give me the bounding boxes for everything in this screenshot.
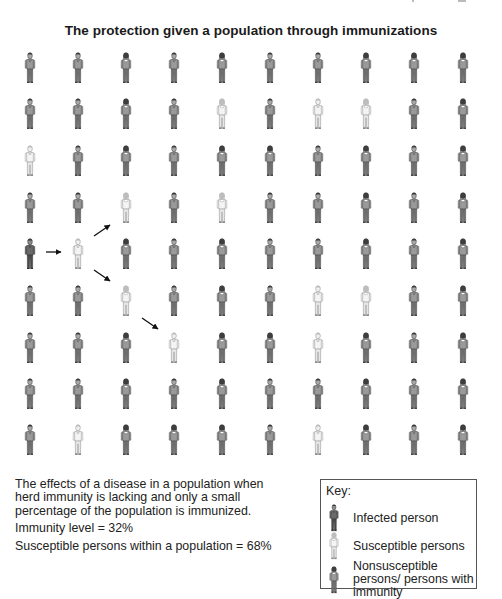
key-label-nonsusceptible: Nonsusceptible persons/ persons with imm… [353, 560, 481, 599]
nonsusceptible-person-icon [71, 332, 85, 364]
nonsusceptible-person-icon [407, 285, 421, 317]
key-item-susceptible: Susceptible persons [327, 532, 465, 560]
nonsusceptible-person-icon [359, 52, 373, 84]
nonsusceptible-person-icon [119, 332, 133, 364]
nonsusceptible-person-icon [311, 52, 325, 84]
nonsusceptible-person-icon [23, 98, 37, 130]
nonsusceptible-person-icon [263, 238, 277, 270]
caption-description: The effects of a disease in a population… [15, 478, 275, 518]
nonsusceptible-person-icon [456, 285, 470, 317]
nonsusceptible-person-icon [407, 378, 421, 410]
nonsusceptible-person-icon [119, 145, 133, 177]
nonsusceptible-person-icon [119, 98, 133, 130]
nonsusceptible-person-icon [167, 424, 181, 456]
susceptible-person-icon [311, 98, 325, 130]
legend-key: Key: Infected person Susceptible persons [320, 479, 477, 589]
nonsusceptible-person-icon [407, 332, 421, 364]
nonsusceptible-person-icon [456, 378, 470, 410]
nonsusceptible-person-icon [311, 378, 325, 410]
nonsusceptible-person-icon [456, 424, 470, 456]
infected-person-icon [23, 238, 37, 270]
nonsusceptible-person-icon [71, 145, 85, 177]
nonsusceptible-person-icon [359, 192, 373, 224]
nonsusceptible-person-icon [263, 332, 277, 364]
nonsusceptible-person-icon [263, 378, 277, 410]
susceptible-person-icon [23, 145, 37, 177]
nonsusceptible-person-icon [311, 238, 325, 270]
nonsusceptible-person-icon [456, 238, 470, 270]
nonsusceptible-person-icon [23, 424, 37, 456]
key-label-nonsusceptible-text: Nonsusceptible persons/ persons with imm… [353, 559, 474, 599]
nonsusceptible-person-icon [407, 192, 421, 224]
susceptible-person-icon [167, 332, 181, 364]
susceptible-share: Susceptible persons within a population … [15, 540, 275, 553]
nonsusceptible-person-icon [71, 192, 85, 224]
nonsusceptible-person-icon [215, 378, 229, 410]
population-grid [0, 0, 502, 460]
immune-person-icon [327, 566, 341, 594]
caption: The effects of a disease in a population… [15, 478, 275, 557]
nonsusceptible-person-icon [359, 378, 373, 410]
nonsusceptible-person-icon [215, 332, 229, 364]
nonsusceptible-person-icon [215, 424, 229, 456]
susceptible-person-icon [119, 192, 133, 224]
susceptible-person-icon [119, 285, 133, 317]
nonsusceptible-person-icon [23, 192, 37, 224]
nonsusceptible-person-icon [407, 98, 421, 130]
nonsusceptible-person-icon [456, 145, 470, 177]
nonsusceptible-person-icon [359, 238, 373, 270]
nonsusceptible-person-icon [311, 192, 325, 224]
nonsusceptible-person-icon [167, 52, 181, 84]
nonsusceptible-person-icon [456, 192, 470, 224]
nonsusceptible-person-icon [311, 145, 325, 177]
nonsusceptible-person-icon [263, 285, 277, 317]
nonsusceptible-person-icon [23, 52, 37, 84]
nonsusceptible-person-icon [263, 52, 277, 84]
immunity-level: Immunity level = 32% [15, 522, 275, 535]
nonsusceptible-person-icon [263, 98, 277, 130]
nonsusceptible-person-icon [263, 145, 277, 177]
susceptible-person-icon [327, 532, 341, 560]
key-item-nonsusceptible: Nonsusceptible persons/ persons with imm… [327, 560, 481, 599]
nonsusceptible-person-icon [71, 98, 85, 130]
susceptible-person-icon [359, 98, 373, 130]
nonsusceptible-person-icon [359, 332, 373, 364]
nonsusceptible-person-icon [456, 98, 470, 130]
nonsusceptible-person-icon [167, 192, 181, 224]
nonsusceptible-person-icon [23, 378, 37, 410]
nonsusceptible-person-icon [407, 145, 421, 177]
nonsusceptible-person-icon [407, 238, 421, 270]
nonsusceptible-person-icon [119, 378, 133, 410]
nonsusceptible-person-icon [167, 98, 181, 130]
nonsusceptible-person-icon [456, 332, 470, 364]
key-label-susceptible: Susceptible persons [353, 540, 465, 553]
nonsusceptible-person-icon [215, 238, 229, 270]
nonsusceptible-person-icon [23, 285, 37, 317]
nonsusceptible-person-icon [215, 52, 229, 84]
nonsusceptible-person-icon [263, 424, 277, 456]
nonsusceptible-person-icon [167, 378, 181, 410]
key-title: Key: [326, 484, 351, 498]
nonsusceptible-person-icon [263, 192, 277, 224]
nonsusceptible-person-icon [71, 52, 85, 84]
nonsusceptible-person-icon [167, 285, 181, 317]
key-item-infected: Infected person [327, 504, 438, 532]
susceptible-person-icon [311, 424, 325, 456]
infected-person-icon [327, 504, 341, 532]
nonsusceptible-person-icon [215, 145, 229, 177]
susceptible-person-icon [359, 285, 373, 317]
nonsusceptible-person-icon [407, 52, 421, 84]
nonsusceptible-person-icon [119, 52, 133, 84]
nonsusceptible-person-icon [167, 238, 181, 270]
susceptible-person-icon [311, 332, 325, 364]
nonsusceptible-person-icon [71, 285, 85, 317]
nonsusceptible-person-icon [407, 424, 421, 456]
nonsusceptible-person-icon [119, 424, 133, 456]
key-label-infected: Infected person [353, 512, 438, 525]
susceptible-person-icon [215, 192, 229, 224]
nonsusceptible-person-icon [456, 52, 470, 84]
nonsusceptible-person-icon [359, 424, 373, 456]
nonsusceptible-person-icon [215, 285, 229, 317]
nonsusceptible-person-icon [359, 145, 373, 177]
nonsusceptible-person-icon [23, 332, 37, 364]
